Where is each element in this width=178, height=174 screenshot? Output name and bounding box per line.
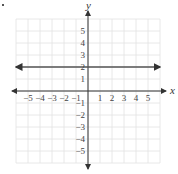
- y-tick-label: 1: [81, 74, 86, 84]
- x-tick-label: 1: [98, 93, 103, 103]
- coordinate-plane: x y −5−4−3−2−11234554321−1−2−3−4−5: [0, 0, 178, 174]
- y-tick-label: 2: [81, 62, 86, 72]
- x-tick-label: 2: [110, 93, 115, 103]
- y-axis-label: y: [85, 0, 91, 11]
- y-tick-label: 5: [81, 26, 86, 36]
- y-tick-label: −4: [75, 134, 85, 144]
- dot-marker: [2, 4, 4, 6]
- y-tick-label: −2: [75, 110, 85, 120]
- x-tick-label: −5: [23, 93, 33, 103]
- x-tick-label: −3: [47, 93, 57, 103]
- x-axis-label: x: [169, 84, 175, 96]
- x-tick-label: −2: [59, 93, 69, 103]
- y-tick-label: −3: [75, 122, 85, 132]
- x-tick-label: 3: [122, 93, 127, 103]
- x-tick-label: 4: [134, 93, 139, 103]
- y-tick-label: 3: [81, 50, 86, 60]
- y-tick-label: −5: [75, 146, 85, 156]
- x-tick-label: 5: [146, 93, 151, 103]
- y-tick-label: −1: [75, 98, 85, 108]
- y-tick-label: 4: [81, 38, 86, 48]
- x-tick-label: −4: [35, 93, 45, 103]
